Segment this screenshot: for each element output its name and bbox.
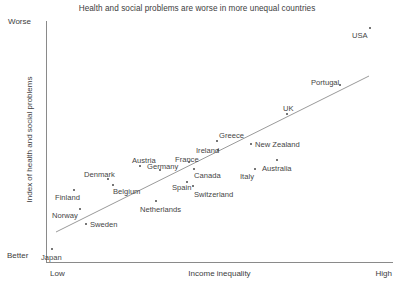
data-point: [250, 143, 253, 146]
scatter-chart: Health and social problems are worse in …: [0, 0, 394, 286]
data-point: [51, 248, 54, 251]
data-point-label: Greece: [219, 131, 244, 140]
data-point-label: Australia: [262, 164, 292, 173]
data-point: [216, 140, 219, 143]
data-point-label: Belgium: [113, 187, 140, 196]
data-point: [192, 185, 195, 188]
data-point-label: Ireland: [196, 146, 219, 155]
data-point-label: Norway: [52, 211, 78, 220]
data-point-label: Spain: [172, 183, 191, 192]
data-point: [155, 200, 158, 203]
data-point-label: USA: [352, 31, 368, 40]
data-point-label: Netherlands: [140, 205, 181, 214]
data-point-label: UK: [283, 104, 294, 113]
data-point: [286, 113, 289, 116]
data-point-label: Denmark: [84, 170, 115, 179]
data-point: [73, 189, 76, 192]
data-point: [254, 168, 257, 171]
data-point-label: Germany: [147, 162, 178, 171]
data-point-label: Italy: [240, 172, 254, 181]
data-point: [139, 165, 142, 168]
data-point-label: Switzerland: [194, 190, 233, 199]
data-point-label: France: [175, 155, 199, 164]
data-point: [85, 223, 88, 226]
data-point-label: Japan: [41, 253, 62, 262]
data-point-label: Portugal: [311, 78, 339, 87]
data-point-label: New Zealand: [255, 140, 300, 149]
data-point-label: Finland: [55, 193, 80, 202]
data-point: [193, 168, 196, 171]
data-point: [369, 27, 372, 30]
plot-area: JapanNorwayFinlandSwedenDenmarkBelgiumNe…: [0, 0, 394, 286]
data-point-label: Sweden: [90, 220, 117, 229]
data-point: [79, 208, 82, 211]
data-point-label: Canada: [194, 171, 221, 180]
data-point: [112, 184, 115, 187]
data-point: [276, 159, 279, 162]
